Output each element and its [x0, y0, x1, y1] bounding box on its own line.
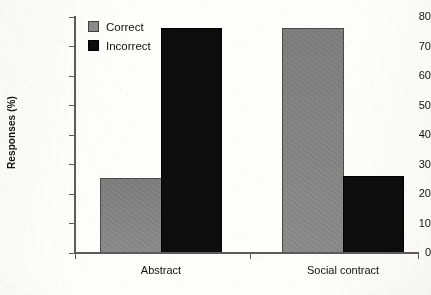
- y-tick-mark-10: [69, 223, 75, 224]
- y-axis-title: Responses (%): [6, 96, 28, 169]
- legend-label-incorrect: Incorrect: [106, 40, 151, 52]
- x-axis-line: [74, 252, 419, 254]
- y-tick-label-70: 70: [397, 40, 431, 52]
- legend-entry-incorrect: Incorrect: [88, 36, 151, 55]
- y-tick-mark-50: [69, 105, 75, 106]
- x-tick-mark-middle: [250, 253, 251, 259]
- y-tick-label-80: 80: [397, 10, 431, 22]
- gray-square-swatch-icon: [88, 21, 99, 32]
- y-tick-mark-20: [69, 194, 75, 195]
- y-tick-label-30: 30: [397, 158, 431, 170]
- y-tick-mark-80: [69, 17, 75, 18]
- y-tick-mark-30: [69, 164, 75, 165]
- y-tick-label-10: 10: [397, 217, 431, 229]
- legend-label-correct: Correct: [106, 21, 144, 33]
- bar-chart-figure: Responses (%) 80 70 60 50 40 30 20 10 0 …: [0, 0, 431, 295]
- bar-abstract-incorrect: [161, 28, 222, 254]
- chart-legend: Correct Incorrect: [88, 17, 151, 55]
- x-tick-mark-start: [75, 253, 76, 259]
- legend-entry-correct: Correct: [88, 17, 151, 36]
- y-tick-label-50: 50: [397, 99, 431, 111]
- x-category-label-social-contract: Social contract: [283, 264, 403, 276]
- y-tick-label-60: 60: [397, 69, 431, 81]
- y-tick-label-40: 40: [397, 128, 431, 140]
- bar-social-contract-incorrect: [343, 176, 404, 254]
- x-category-label-abstract: Abstract: [101, 264, 221, 276]
- bar-social-contract-correct: [282, 28, 344, 254]
- y-tick-label-0: 0: [397, 246, 431, 258]
- y-tick-mark-40: [69, 135, 75, 136]
- y-tick-mark-70: [69, 46, 75, 47]
- black-square-swatch-icon: [88, 40, 99, 51]
- bar-abstract-correct: [100, 178, 162, 254]
- y-tick-mark-60: [69, 76, 75, 77]
- y-tick-label-20: 20: [397, 187, 431, 199]
